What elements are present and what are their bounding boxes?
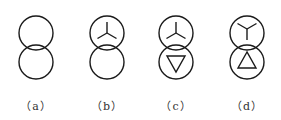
delta-connection-icon bbox=[238, 52, 256, 68]
label-a: （a） bbox=[11, 97, 61, 113]
star-connection-icon bbox=[167, 22, 186, 39]
star-connection-icon bbox=[98, 22, 117, 39]
label-c: （c） bbox=[151, 97, 201, 113]
symbol-b bbox=[90, 16, 124, 79]
delta-connection-icon bbox=[167, 56, 185, 72]
label-d: （d） bbox=[222, 97, 272, 113]
symbol-d bbox=[230, 16, 264, 79]
star-connection-icon bbox=[238, 24, 257, 41]
symbol-c bbox=[159, 16, 193, 79]
label-b: （b） bbox=[82, 97, 132, 113]
symbol-a bbox=[19, 16, 53, 79]
